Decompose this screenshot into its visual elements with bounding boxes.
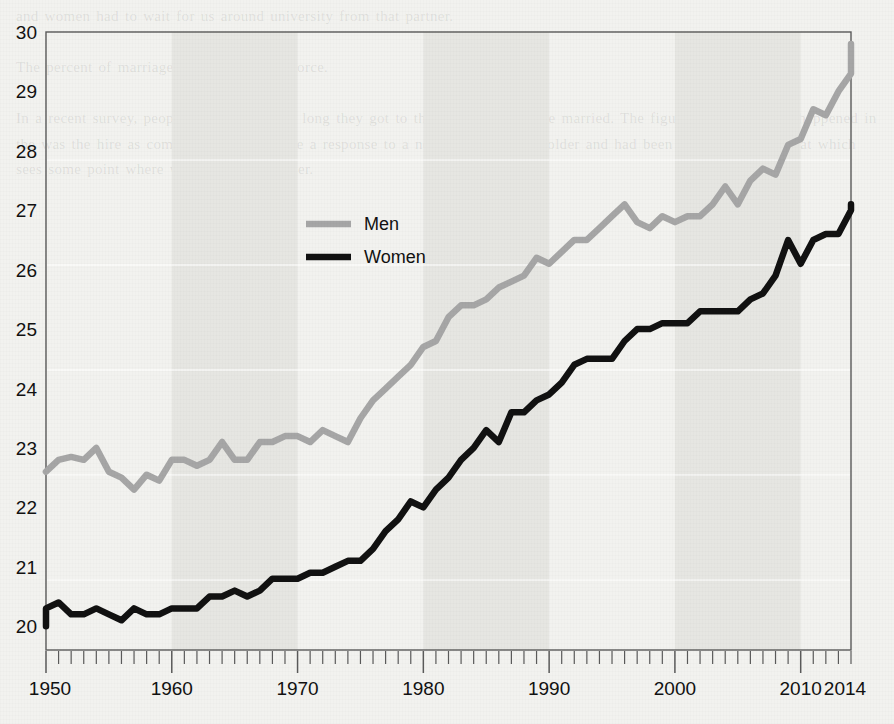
x-axis-tick-label: 1950 — [29, 678, 71, 699]
decade-band — [423, 32, 549, 650]
x-axis-tick-label: 1970 — [276, 678, 318, 699]
y-axis-tick-labels: 2021222324252627282930 — [16, 22, 38, 637]
decade-band — [172, 32, 298, 650]
legend-label-men: Men — [364, 214, 399, 234]
decade-shading-bands — [172, 32, 801, 650]
y-axis-tick-label: 29 — [16, 81, 37, 102]
y-axis-tick-label: 21 — [16, 557, 37, 578]
x-axis-tick-labels: 19501960197019801990200020102014 — [29, 678, 867, 699]
x-axis-tick-label: 2014 — [824, 678, 867, 699]
y-axis-tick-label: 26 — [16, 260, 37, 281]
y-axis-tick-label: 22 — [16, 497, 37, 518]
legend-label-women: Women — [364, 247, 426, 267]
x-axis-tick-label: 1990 — [528, 678, 570, 699]
y-axis-tick-label: 23 — [16, 438, 37, 459]
x-axis-tick-label: 1960 — [151, 678, 193, 699]
x-axis-tick-label: 2000 — [654, 678, 696, 699]
y-axis-tick-label: 20 — [16, 616, 37, 637]
y-axis-tick-label: 28 — [16, 141, 37, 162]
x-axis-tick-label: 2010 — [780, 678, 822, 699]
median-age-first-marriage-chart: 2021222324252627282930 19501960197019801… — [0, 0, 894, 724]
y-axis-tick-label: 25 — [16, 319, 37, 340]
chart-legend: Men Women — [306, 214, 426, 267]
chart-page: and women had to wait for us around univ… — [0, 0, 894, 724]
decade-band — [675, 32, 801, 650]
y-axis-tick-label: 24 — [16, 379, 38, 400]
y-axis-tick-label: 27 — [16, 200, 37, 221]
x-axis-tick-label: 1980 — [402, 678, 444, 699]
x-axis-ticks — [46, 651, 851, 673]
y-axis-tick-label: 30 — [16, 22, 37, 43]
